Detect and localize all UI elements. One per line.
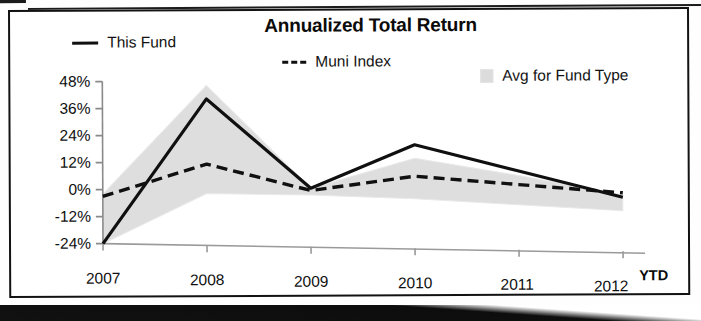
x-tick-label: 2009 <box>294 273 329 291</box>
chart-card: Annualized Total Return This Fund Muni I… <box>8 7 690 298</box>
x-tick-label: 2010 <box>398 274 433 292</box>
x-axis-ytd-label: YTD <box>639 267 668 283</box>
x-tick-label: 2012 <box>594 277 629 295</box>
x-tick-label: 2008 <box>190 271 225 289</box>
x-axis-labels: 2007 2008 2009 2010 2011 2012 <box>10 9 688 296</box>
chart-card-inner: Annualized Total Return This Fund Muni I… <box>10 9 688 296</box>
scan-bottom-bar <box>0 305 701 321</box>
scanned-page: Annualized Total Return This Fund Muni I… <box>0 0 701 321</box>
x-tick-label: 2011 <box>500 276 533 294</box>
x-tick-label: 2007 <box>86 270 121 288</box>
